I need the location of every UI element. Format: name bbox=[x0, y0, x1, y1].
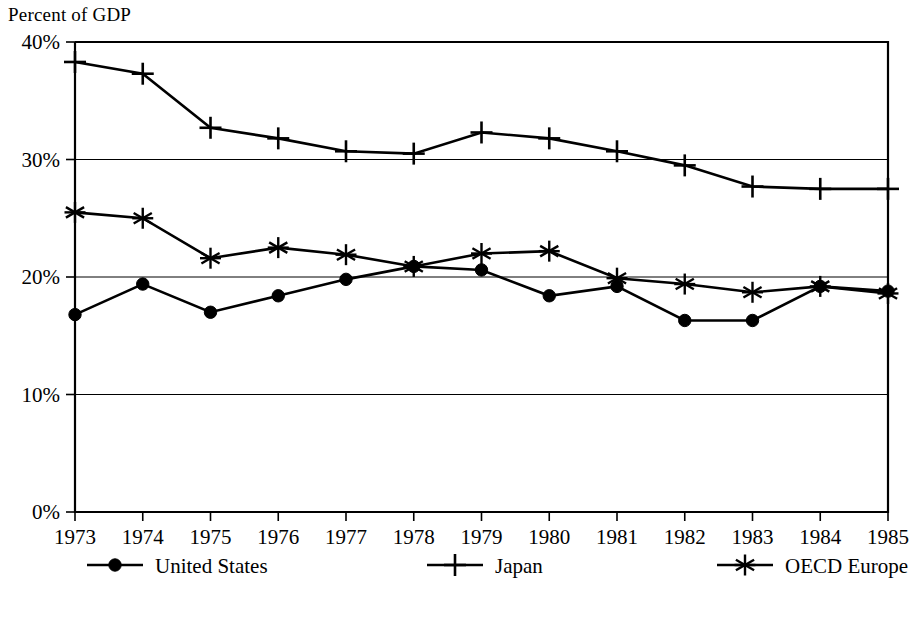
series-japan bbox=[64, 51, 899, 200]
data-point bbox=[340, 273, 352, 285]
data-point bbox=[475, 264, 487, 276]
y-tick-label: 40% bbox=[22, 30, 61, 54]
x-tick-label: 1974 bbox=[122, 525, 165, 549]
data-point bbox=[335, 140, 357, 162]
data-point bbox=[679, 314, 691, 326]
data-series-group bbox=[64, 51, 899, 327]
legend-item-oecd-europe[interactable]: OECD Europe bbox=[717, 554, 908, 578]
x-tick-label: 1983 bbox=[732, 525, 774, 549]
chart-legend: United StatesJapanOECD Europe bbox=[87, 554, 908, 578]
y-tick-label: 20% bbox=[22, 265, 61, 289]
x-tick-label: 1980 bbox=[528, 525, 570, 549]
x-tick-label: 1978 bbox=[393, 525, 435, 549]
data-point bbox=[742, 282, 763, 303]
data-point bbox=[65, 202, 86, 223]
marker-circle bbox=[679, 314, 691, 326]
x-tick-label: 1976 bbox=[257, 525, 299, 549]
legend-item-japan[interactable]: Japan bbox=[427, 554, 543, 578]
x-axis-tick-labels: 1973197419751976197719781979198019811982… bbox=[54, 525, 909, 549]
line-chart-plot: 0%10%20%30%40% 1973197419751976197719781… bbox=[0, 0, 919, 623]
y-axis-tick-labels: 0%10%20%30%40% bbox=[22, 30, 61, 524]
legend-label: Japan bbox=[495, 554, 543, 578]
marker-circle bbox=[475, 264, 487, 276]
series-united-states bbox=[69, 260, 894, 326]
data-point bbox=[403, 256, 424, 277]
legend-label: OECD Europe bbox=[785, 554, 908, 578]
data-point bbox=[204, 306, 216, 318]
x-tick-label: 1973 bbox=[54, 525, 96, 549]
marker-circle bbox=[272, 290, 284, 302]
data-point bbox=[809, 178, 831, 200]
marker-circle bbox=[204, 306, 216, 318]
data-point bbox=[539, 241, 560, 262]
y-tick-label: 10% bbox=[22, 383, 61, 407]
legend-item-united-states[interactable]: United States bbox=[87, 554, 268, 578]
marker-circle bbox=[69, 308, 81, 320]
x-tick-label: 1975 bbox=[190, 525, 232, 549]
x-tick-label: 1985 bbox=[867, 525, 909, 549]
data-point bbox=[471, 121, 493, 143]
gridlines-group bbox=[75, 42, 888, 512]
data-point bbox=[606, 140, 628, 162]
data-point bbox=[64, 51, 86, 73]
marker-circle bbox=[746, 314, 758, 326]
data-point bbox=[272, 290, 284, 302]
data-point bbox=[267, 127, 289, 149]
marker-circle bbox=[109, 559, 121, 571]
x-tick-label: 1977 bbox=[325, 525, 367, 549]
data-point bbox=[471, 243, 492, 264]
data-point bbox=[132, 208, 153, 229]
legend-marker bbox=[735, 555, 756, 576]
data-point bbox=[69, 308, 81, 320]
legend-marker bbox=[109, 559, 121, 571]
data-point bbox=[742, 176, 764, 198]
data-point bbox=[810, 276, 831, 297]
data-point bbox=[268, 237, 289, 258]
marker-circle bbox=[137, 278, 149, 290]
marker-circle bbox=[340, 273, 352, 285]
data-point bbox=[336, 244, 357, 265]
y-tick-label: 30% bbox=[22, 148, 61, 172]
data-point bbox=[877, 178, 899, 200]
legend-marker bbox=[444, 554, 466, 576]
data-point bbox=[607, 268, 628, 289]
marker-circle bbox=[543, 290, 555, 302]
x-tick-label: 1981 bbox=[596, 525, 638, 549]
data-point bbox=[200, 248, 221, 269]
x-axis-ticks bbox=[66, 42, 888, 521]
x-tick-label: 1984 bbox=[799, 525, 842, 549]
x-tick-label: 1982 bbox=[664, 525, 706, 549]
data-point bbox=[878, 283, 899, 304]
data-point bbox=[543, 290, 555, 302]
x-tick-label: 1979 bbox=[461, 525, 503, 549]
data-point bbox=[403, 143, 425, 165]
series-oecd-europe bbox=[65, 202, 899, 304]
y-tick-label: 0% bbox=[32, 500, 60, 524]
data-point bbox=[137, 278, 149, 290]
legend-label: United States bbox=[155, 554, 268, 578]
data-point bbox=[674, 154, 696, 176]
data-point bbox=[746, 314, 758, 326]
data-point bbox=[538, 127, 560, 149]
chart-figure: Percent of GDP 0%10%20%30%40% 1973197419… bbox=[0, 0, 919, 623]
